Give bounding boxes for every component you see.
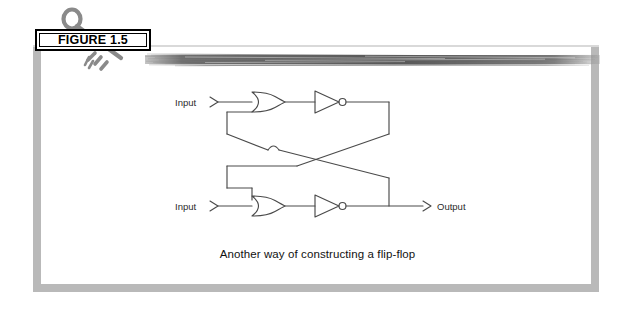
wire-feedback-bottom-to-top-d — [279, 150, 389, 178]
figure-label-inner-border: FIGURE 1.5 — [39, 33, 147, 47]
figure-label: FIGURE 1.5 — [35, 29, 151, 51]
output-arrow — [423, 201, 431, 211]
label-output: Output — [437, 201, 466, 212]
input-arrow-top — [210, 97, 218, 107]
label-input-top: Input — [175, 97, 196, 108]
or-gate-top — [252, 92, 285, 112]
frame-border-bottom — [33, 284, 599, 292]
wire-cross-top-to-bottom-a — [297, 134, 389, 166]
not-gate-bottom — [315, 195, 346, 217]
not-gate-top — [315, 91, 346, 113]
label-input-bottom: Input — [175, 201, 196, 212]
figure-caption: Another way of constructing a flip-flop — [0, 248, 635, 260]
flip-flop-circuit-diagram: Input Input Output — [175, 88, 495, 238]
wire-hop-marker — [268, 146, 279, 150]
figure-label-text: FIGURE 1.5 — [58, 34, 128, 47]
wire-feedback-bottom-to-top-c — [227, 134, 268, 150]
or-gate-bottom — [252, 196, 285, 216]
input-arrow-bottom — [210, 201, 218, 211]
